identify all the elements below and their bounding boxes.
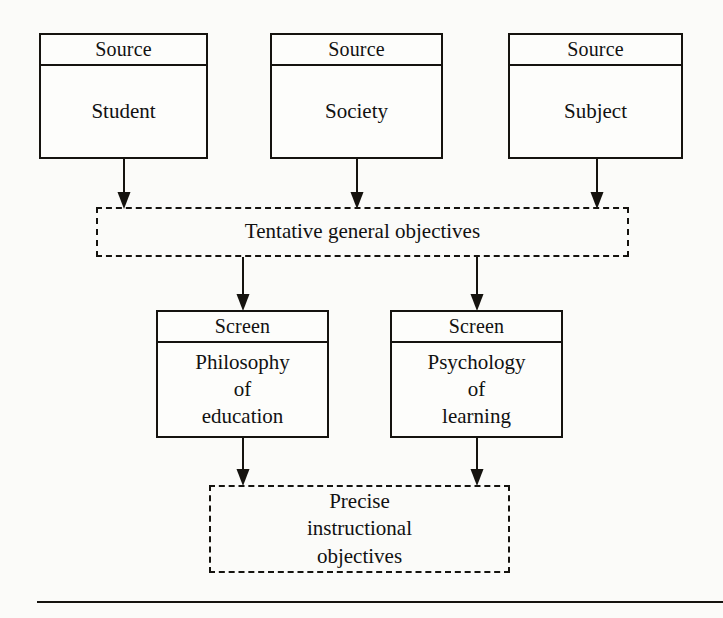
precise-instructional-objectives-line-1: Precise xyxy=(307,488,412,515)
connector-psychology-to-precise xyxy=(469,438,485,486)
precise-instructional-objectives-box: Precise instructional objectives xyxy=(209,485,510,573)
source-box-student-header: Source xyxy=(41,35,206,66)
screen-box-philosophy-label: Philosophy of education xyxy=(158,343,327,436)
precise-instructional-objectives-line-3: objectives xyxy=(307,543,412,570)
source-box-society: Source Society xyxy=(270,33,443,159)
source-box-subject-label: Subject xyxy=(510,66,681,157)
screen-box-philosophy: Screen Philosophy of education xyxy=(156,310,329,438)
tentative-general-objectives-box: Tentative general objectives xyxy=(96,207,629,257)
screen-box-psychology-label: Psychology of learning xyxy=(392,343,561,436)
connector-society-to-tentative xyxy=(349,159,365,209)
connector-student-to-tentative xyxy=(116,159,132,209)
connector-subject-to-tentative xyxy=(589,159,605,209)
screen-box-psychology-line-2: of xyxy=(427,376,525,403)
source-box-student-label: Student xyxy=(41,66,206,157)
source-box-society-label: Society xyxy=(272,66,441,157)
figure-canvas: Source Student Source Society Source Sub… xyxy=(0,0,723,618)
source-box-student: Source Student xyxy=(39,33,208,159)
connector-philosophy-to-precise xyxy=(235,438,251,486)
source-box-subject: Source Subject xyxy=(508,33,683,159)
connector-tentative-to-philosophy xyxy=(235,257,251,311)
screen-box-philosophy-line-3: education xyxy=(195,403,290,430)
screen-box-psychology-header: Screen xyxy=(392,312,561,343)
precise-instructional-objectives-line-2: instructional xyxy=(307,515,412,542)
tentative-general-objectives-label: Tentative general objectives xyxy=(245,218,480,245)
screen-box-philosophy-line-1: Philosophy xyxy=(195,349,290,376)
source-box-subject-header: Source xyxy=(510,35,681,66)
connector-tentative-to-psychology xyxy=(469,257,485,311)
screen-box-psychology-line-1: Psychology xyxy=(427,349,525,376)
screen-box-philosophy-line-2: of xyxy=(195,376,290,403)
page-bottom-rule xyxy=(37,601,723,603)
screen-box-philosophy-header: Screen xyxy=(158,312,327,343)
screen-box-psychology-line-3: learning xyxy=(427,403,525,430)
source-box-society-header: Source xyxy=(272,35,441,66)
screen-box-psychology: Screen Psychology of learning xyxy=(390,310,563,438)
